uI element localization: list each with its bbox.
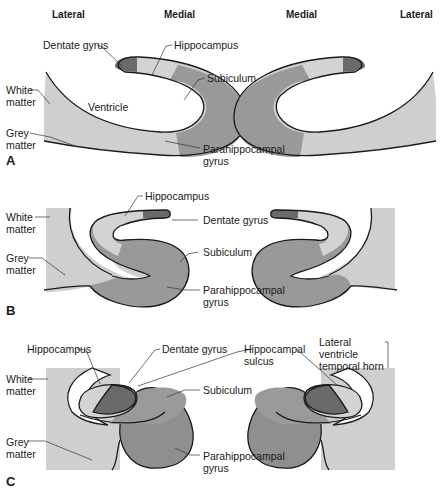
label-a-hippocampus: Hippocampus <box>174 39 238 51</box>
header-left-medial: Medial <box>164 9 195 20</box>
label-b-parahippocampal-gyrus: Parahippocampal gyrus <box>203 284 293 308</box>
panel-letter-c: C <box>6 474 15 489</box>
panel-letter-b: B <box>6 303 15 318</box>
panel-c-left-drawing <box>46 368 193 470</box>
label-a-ventricle: Ventricle <box>88 101 128 113</box>
label-c-grey-matter: Grey matter <box>6 436 36 460</box>
header-left-lateral: Lateral <box>52 9 85 20</box>
panel-b-left-drawing <box>44 208 189 307</box>
label-a-dentate-gyrus: Dentate gyrus <box>43 39 108 51</box>
label-c-parahippocampal-gyrus: Parahippocampal gyrus <box>203 450 293 474</box>
label-c-dentate-gyrus: Dentate gyrus <box>162 343 227 355</box>
label-c-white-matter: White matter <box>6 373 36 397</box>
panel-letter-a: A <box>6 153 15 168</box>
header-right-lateral: Lateral <box>400 9 433 20</box>
label-a-parahippocampal-gyrus: Parahippocampal gyrus <box>203 143 293 167</box>
label-a-grey-matter: Grey matter <box>6 127 36 151</box>
label-c-lateral-ventricle-temporal-horn: Lateral ventricle temporal horn <box>319 336 391 372</box>
label-b-subiculum: Subiculum <box>203 246 252 258</box>
header-right-medial: Medial <box>286 9 317 20</box>
label-c-subiculum: Subiculum <box>203 384 252 396</box>
label-a-subiculum: Subiculum <box>207 72 256 84</box>
label-b-grey-matter: Grey matter <box>6 252 36 276</box>
label-a-white-matter: White matter <box>6 84 36 108</box>
label-c-hippocampal-sulcus: Hippocampal sulcus <box>244 343 304 367</box>
label-b-white-matter: White matter <box>6 211 36 235</box>
label-b-hippocampus: Hippocampus <box>145 190 209 202</box>
panel-a-right-shape <box>234 57 436 157</box>
label-b-dentate-gyrus: Dentate gyrus <box>203 214 268 226</box>
label-c-hippocampus: Hippocampus <box>27 343 91 355</box>
